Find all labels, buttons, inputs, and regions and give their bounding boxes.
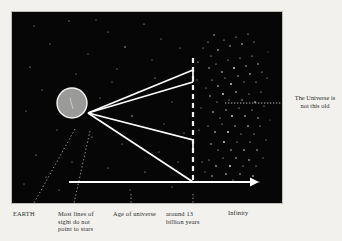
earth-disc xyxy=(57,88,87,118)
lines-of-sight-group xyxy=(88,70,193,182)
caption-universe-not-this-old: The Universe is not this old xyxy=(290,94,340,110)
axis-label-row: EARTH Most lines of sight do not point t… xyxy=(0,203,342,241)
sky-panel xyxy=(11,11,283,204)
line-of-sight-2 xyxy=(88,82,193,113)
figure-root: EARTH Most lines of sight do not point t… xyxy=(0,0,342,241)
sky-diagram-svg xyxy=(12,12,282,203)
line-of-sight-4 xyxy=(88,113,193,182)
label-earth: EARTH xyxy=(13,210,35,218)
label-lines-of-sight: Most lines of sight do not point to star… xyxy=(58,210,94,233)
time-arrow-group xyxy=(69,178,259,187)
label-infinity: Infinity xyxy=(228,209,248,217)
axis-tick-leaders xyxy=(131,194,193,203)
dense-star-field xyxy=(197,33,271,182)
earth-leader-lines xyxy=(34,129,90,203)
line-of-sight-1 xyxy=(88,70,193,113)
sparse-star-field xyxy=(24,20,185,191)
line-of-sight-3 xyxy=(88,113,193,152)
label-around-13-billion-years: around 13 billion years xyxy=(166,210,200,225)
label-age-of-universe: Age of universe xyxy=(113,210,156,218)
time-arrow-head xyxy=(250,178,259,187)
